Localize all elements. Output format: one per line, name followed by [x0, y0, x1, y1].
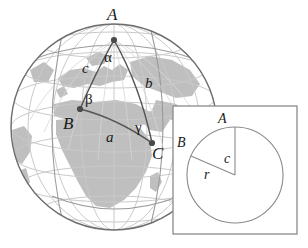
figure-canvas: A B C α β γ a b c A B c r [0, 0, 308, 248]
label-angle-gamma: γ [135, 120, 142, 135]
label-vertex-A: A [107, 6, 117, 23]
label-angle-alpha: α [104, 50, 112, 65]
label-angle-beta: β [85, 92, 93, 107]
inset-panel [173, 106, 297, 234]
label-inset-c: c [224, 152, 230, 166]
label-side-b: b [145, 76, 153, 91]
diagram-svg [0, 0, 308, 248]
vertex-dot-A [111, 37, 117, 43]
label-side-c: c [82, 61, 89, 76]
label-inset-B: B [177, 136, 186, 150]
label-vertex-C: C [152, 145, 163, 162]
label-inset-r: r [204, 168, 209, 182]
label-inset-A: A [218, 112, 227, 126]
label-side-a: a [106, 130, 114, 145]
label-vertex-B: B [63, 115, 73, 132]
vertex-dot-B [77, 106, 83, 112]
